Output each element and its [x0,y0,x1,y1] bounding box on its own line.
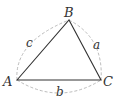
vertex-label-b: B [63,5,74,20]
vertex-label-c: C [103,74,113,89]
vertex-label-a: A [2,74,12,89]
triangle [17,20,101,80]
side-label-a: a [93,38,100,52]
side-label-c: c [26,36,33,50]
side-label-b: b [56,85,64,99]
triangle-diagram: B A C c a b [0,0,119,101]
